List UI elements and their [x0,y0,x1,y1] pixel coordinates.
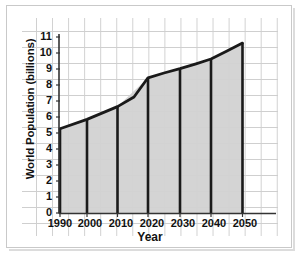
x-tick-label-2020: 2020 [135,218,169,229]
y-tick-label-3: 3 [38,159,52,170]
y-tick-label-9: 9 [38,63,52,74]
y-tick-label-5: 5 [38,127,52,138]
x-tick-label-1990: 1990 [43,218,77,229]
x-tick-label-2000: 2000 [73,218,107,229]
chart-page: 11 10 9 8 7 6 5 4 3 2 1 0 1990 2000 2010… [0,0,303,259]
y-tick-label-10: 10 [38,47,52,58]
x-tick-label-2040: 2040 [197,218,231,229]
y-axis-title: World Population (billions) [24,34,36,184]
y-tick-label-1: 1 [38,191,52,202]
y-tick-label-8: 8 [38,79,52,90]
x-tick-label-2010: 2010 [104,218,138,229]
x-tick-label-2030: 2030 [166,218,200,229]
x-tick-label-2050: 2050 [228,218,262,229]
y-tick-label-6: 6 [38,111,52,122]
y-tick-label-2: 2 [38,175,52,186]
y-tick-label-11: 11 [38,31,52,42]
x-axis-title: Year [55,230,245,244]
y-tick-label-4: 4 [38,143,52,154]
y-tick-label-7: 7 [38,95,52,106]
